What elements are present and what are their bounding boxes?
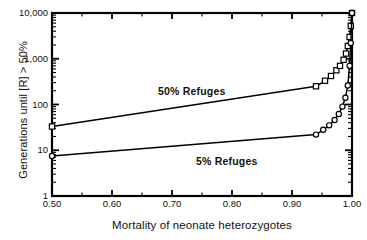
- plot-frame: [52, 13, 352, 196]
- series-line-5-refuges: [52, 13, 352, 156]
- plot-area: [0, 0, 367, 240]
- series-line-50-refuges: [52, 13, 352, 127]
- data-marker-circle: [336, 111, 341, 116]
- data-marker-circle: [347, 63, 352, 68]
- data-marker-circle: [327, 123, 332, 128]
- data-marker-square: [322, 78, 327, 83]
- data-marker-circle: [345, 83, 350, 88]
- data-marker-square: [341, 57, 346, 62]
- data-marker-circle: [332, 117, 337, 122]
- data-marker-circle: [340, 104, 345, 109]
- data-marker-circle: [343, 95, 348, 100]
- data-marker-square: [49, 124, 54, 129]
- data-marker-circle: [348, 40, 353, 45]
- figure-container: Generations until [R] > 50% 1101001,0001…: [0, 0, 367, 240]
- data-marker-square: [313, 84, 318, 89]
- data-marker-square: [343, 51, 348, 56]
- data-marker-square: [328, 73, 333, 78]
- data-marker-circle: [321, 127, 326, 132]
- data-marker-circle: [313, 132, 318, 137]
- data-marker-square: [337, 63, 342, 68]
- data-marker-circle: [349, 10, 354, 15]
- data-marker-circle: [49, 153, 54, 158]
